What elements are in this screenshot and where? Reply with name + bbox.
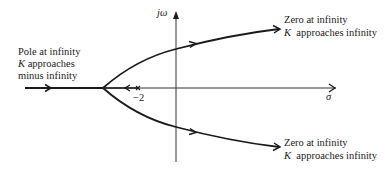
- lower-annotation-line2: K approaches infinity: [283, 150, 378, 161]
- root-locus-diagram: jω σ −2 Pole at infinity K approaches mi…: [0, 0, 391, 171]
- upper-annotation-line1: Zero at infinity: [284, 14, 348, 25]
- left-annotation-line2: K approaches: [17, 58, 75, 69]
- real-axis-label: σ: [326, 91, 332, 102]
- lower-locus-branch: [103, 88, 279, 147]
- left-annotation-line1: Pole at infinity: [18, 46, 81, 57]
- upper-locus-branch: [103, 29, 279, 88]
- left-annotation-line3: minus infinity: [18, 70, 78, 81]
- lower-annotation-line1: Zero at infinity: [284, 137, 348, 148]
- imaginary-axis-arrow-icon: [173, 11, 179, 19]
- upper-annotation-line2: K approaches infinity: [283, 27, 378, 38]
- imaginary-axis-label: jω: [155, 7, 167, 18]
- tick-label-minus-2: −2: [133, 92, 144, 103]
